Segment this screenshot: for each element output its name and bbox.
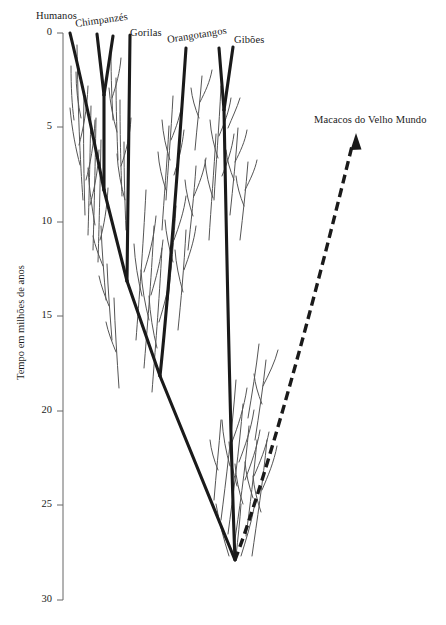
lineage-root-to-hominoid: [160, 376, 235, 560]
y-tick-label-25: 25: [22, 498, 52, 509]
tip-label-giboes: Gibões: [234, 34, 264, 45]
y-axis-title: Tempo em milhões de anos: [15, 265, 26, 380]
lineage-gibao-direito: [224, 47, 233, 110]
tip-label-gorilas: Gorilas: [130, 27, 162, 38]
y-tick-label-15: 15: [22, 309, 52, 320]
tip-label-humanos: Humanos: [36, 10, 77, 21]
tip-label-macacos-velho-mundo: Macacos do Velho Mundo: [314, 114, 427, 125]
lineage-gorilas: [127, 35, 130, 281]
lineage-chimpanze-comum: [97, 34, 104, 95]
fossil-cluster-left-sprigs: [93, 226, 119, 388]
fossil-branches-group: [70, 45, 278, 556]
y-tick-label-0: 0: [22, 26, 52, 37]
y-tick-label-20: 20: [22, 404, 52, 415]
y-tick-label-10: 10: [22, 215, 52, 226]
tree-drawing: [0, 0, 446, 625]
y-tick-label-5: 5: [22, 120, 52, 131]
arrowhead-icon: [351, 133, 362, 150]
y-tick-label-30: 30: [22, 593, 52, 604]
fossil-cluster-gibbon: [205, 86, 257, 240]
main-lineages-group: [70, 33, 235, 560]
y-axis: [57, 33, 63, 600]
old-world-monkey-lineage: [235, 133, 362, 560]
fossil-cluster-orangutan: [158, 70, 212, 230]
phylogenetic-tree-figure: Humanos Chimpanzés Gorilas Orangotangos …: [0, 0, 446, 625]
